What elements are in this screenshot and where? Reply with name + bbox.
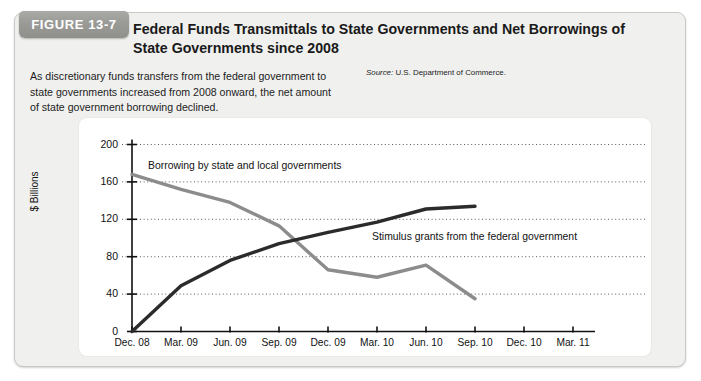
- x-tick-label: Mar. 09: [154, 337, 208, 348]
- y-tick-label: 80: [84, 250, 118, 262]
- x-tick-label: Dec. 10: [497, 337, 551, 348]
- y-axis-label: $ Billions: [29, 152, 40, 232]
- x-tick-label: Jun. 10: [399, 337, 453, 348]
- x-tick-label: Jun. 09: [203, 337, 257, 348]
- figure-caption: As discretionary funds transfers from th…: [30, 69, 340, 116]
- series-label-stimulus: Stimulus grants from the federal governm…: [372, 231, 577, 242]
- figure-source: Source: U.S. Department of Commerce.: [366, 68, 506, 77]
- figure-number-badge: FIGURE 13-7: [19, 11, 129, 38]
- y-tick-label: 120: [84, 212, 118, 224]
- source-text: U.S. Department of Commerce.: [395, 68, 506, 77]
- figure-number-label: FIGURE 13-7: [19, 11, 129, 38]
- x-tick-label: Dec. 09: [301, 337, 355, 348]
- x-tick-label: Mar. 10: [350, 337, 404, 348]
- x-tick-label: Mar. 11: [546, 337, 600, 348]
- figure-root: FIGURE 13-7 Federal Funds Transmittals t…: [0, 0, 701, 381]
- y-tick-label: 200: [84, 138, 118, 150]
- series-label-borrowing: Borrowing by state and local governments: [148, 160, 342, 171]
- x-tick-label: Sep. 10: [448, 337, 502, 348]
- x-tick-label: Sep. 09: [252, 337, 306, 348]
- source-prefix: Source:: [366, 68, 393, 77]
- y-tick-label: 160: [84, 175, 118, 187]
- x-tick-label: Dec. 08: [105, 337, 159, 348]
- figure-title: Federal Funds Transmittals to State Gove…: [133, 20, 653, 57]
- y-tick-label: 0: [84, 325, 118, 337]
- y-tick-label: 40: [84, 287, 118, 299]
